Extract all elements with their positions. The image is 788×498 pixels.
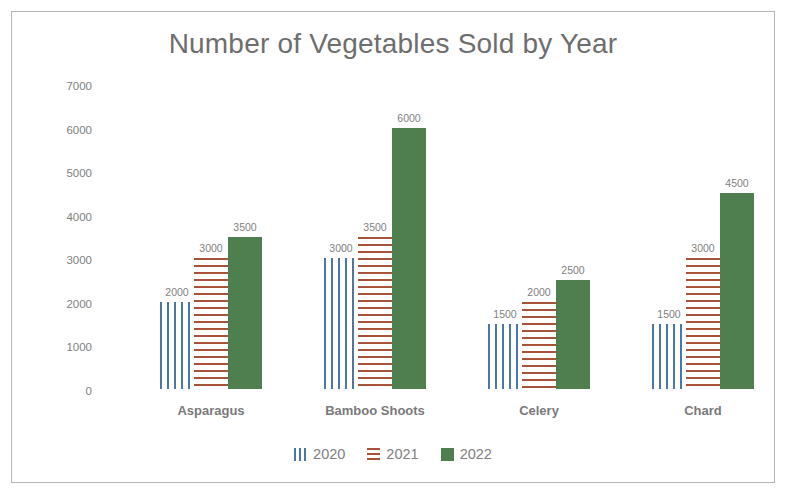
y-axis-tick: 5000 [32, 167, 92, 179]
bar-value-label: 3500 [363, 221, 386, 233]
legend-item-2022[interactable]: 2022 [441, 446, 492, 462]
bar-bamboo-shoots-2020[interactable]: 3000 [324, 258, 358, 389]
y-axis-tick: 7000 [32, 80, 92, 92]
bar-value-label: 6000 [397, 112, 420, 124]
bar-value-label: 2500 [561, 264, 584, 276]
legend-swatch-icon [441, 448, 454, 461]
bar-celery-2021[interactable]: 2000 [522, 302, 556, 389]
bar-value-label: 2000 [165, 286, 188, 298]
bar-chard-2021[interactable]: 3000 [686, 258, 720, 389]
legend-swatch-icon [294, 448, 307, 461]
category-label: Chard [652, 403, 754, 418]
y-axis-tick: 6000 [32, 124, 92, 136]
bar-bamboo-shoots-2022[interactable]: 6000 [392, 128, 426, 389]
group-bars: 150020002500 [488, 280, 590, 389]
bar-value-label: 1500 [657, 308, 680, 320]
category-label: Bamboo Shoots [324, 403, 426, 418]
bar-chard-2022[interactable]: 4500 [720, 193, 754, 389]
bar-celery-2020[interactable]: 1500 [488, 324, 522, 389]
bar-value-label: 2000 [527, 286, 550, 298]
bar-groups: 200030003500Asparagus300035006000Bamboo … [107, 12, 766, 482]
bar-asparagus-2020[interactable]: 2000 [160, 302, 194, 389]
y-axis-tick: 4000 [32, 211, 92, 223]
category-label: Celery [488, 403, 590, 418]
bar-value-label: 4500 [725, 177, 748, 189]
y-axis-tick: 2000 [32, 298, 92, 310]
bar-value-label: 1500 [493, 308, 516, 320]
bar-celery-2022[interactable]: 2500 [556, 280, 590, 389]
y-axis-tick: 3000 [32, 254, 92, 266]
legend-label: 2021 [386, 446, 418, 462]
bar-bamboo-shoots-2021[interactable]: 3500 [358, 237, 392, 390]
legend-item-2021[interactable]: 2021 [367, 446, 418, 462]
category-label: Asparagus [160, 403, 262, 418]
group-bars: 200030003500 [160, 237, 262, 390]
legend-label: 2020 [313, 446, 345, 462]
plot-area: 70006000500040003000200010000 2000300035… [12, 12, 774, 482]
bar-chard-2020[interactable]: 1500 [652, 324, 686, 389]
legend-swatch-icon [367, 448, 380, 461]
y-axis-tick: 1000 [32, 341, 92, 353]
legend-label: 2022 [460, 446, 492, 462]
bar-value-label: 3000 [199, 242, 222, 254]
chart-frame: Number of Vegetables Sold by Year 700060… [11, 11, 775, 483]
y-axis-tick: 0 [32, 385, 92, 397]
group-bars: 150030004500 [652, 193, 754, 389]
legend-item-2020[interactable]: 2020 [294, 446, 345, 462]
bar-asparagus-2022[interactable]: 3500 [228, 237, 262, 390]
y-axis: 70006000500040003000200010000 [30, 12, 92, 482]
bar-value-label: 3000 [329, 242, 352, 254]
bar-asparagus-2021[interactable]: 3000 [194, 258, 228, 389]
group-bars: 300035006000 [324, 128, 426, 389]
chart-legend: 202020212022 [12, 446, 774, 462]
bar-value-label: 3000 [691, 242, 714, 254]
bar-value-label: 3500 [233, 221, 256, 233]
